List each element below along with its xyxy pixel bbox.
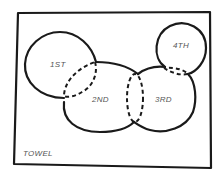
region-4th-label: 4TH	[173, 41, 189, 50]
region-1st-label: 1ST	[50, 60, 66, 69]
region-3rd-label: 3RD	[155, 95, 172, 104]
region-2nd-label: 2ND	[91, 95, 109, 104]
overlap-2nd-3rd	[127, 74, 143, 122]
overlap-3rd-4th	[164, 68, 188, 75]
towel-diagram: 1ST 2ND 3RD 4TH TOWEL	[0, 0, 223, 179]
towel-label: TOWEL	[23, 149, 53, 158]
overlap-1st-2nd	[64, 62, 96, 97]
